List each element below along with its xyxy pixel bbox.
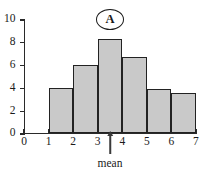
histogram-bar (49, 88, 74, 134)
x-tick-label: 6 (169, 135, 175, 148)
x-tick-label: 2 (70, 135, 76, 148)
histogram-bar (73, 65, 98, 133)
y-tick: 10 (20, 19, 25, 20)
histogram-figure: A 0246810 01234567 mean (0, 0, 207, 169)
y-tick: 4 (20, 88, 25, 89)
x-tick-label: 7 (193, 135, 199, 148)
x-tick-label: 1 (46, 135, 52, 148)
plot-area: 0246810 01234567 mean (24, 20, 196, 134)
y-tick-label: 0 (10, 126, 16, 139)
y-tick-label: 10 (4, 12, 16, 25)
histogram-bar (171, 93, 196, 133)
y-tick-label: 6 (10, 58, 16, 71)
mean-marker-line: mean (109, 135, 111, 154)
x-tick-label: 0 (21, 135, 27, 148)
y-tick-label: 2 (10, 104, 16, 117)
x-tick-label: 5 (144, 135, 150, 148)
x-tick: 0 (23, 129, 24, 134)
y-tick-label: 8 (10, 35, 16, 48)
mean-label: mean (98, 157, 123, 169)
y-tick: 6 (20, 65, 25, 66)
x-tick-label: 4 (119, 135, 125, 148)
y-tick: 2 (20, 111, 25, 112)
y-tick-label: 4 (10, 81, 16, 94)
x-tick-label: 3 (95, 135, 101, 148)
histogram-bar (98, 39, 123, 134)
y-tick: 8 (20, 42, 25, 43)
mean-arrow-icon (107, 131, 113, 136)
y-axis-line (24, 20, 25, 134)
histogram-bar (147, 89, 172, 133)
histogram-bar (122, 57, 147, 133)
